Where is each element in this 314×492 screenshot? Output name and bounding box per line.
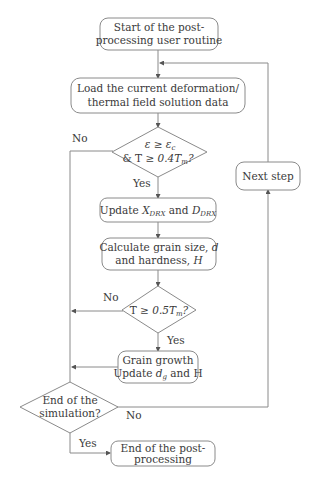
edge-decision1-no — [70, 151, 113, 395]
node-start-line2: processing user routine — [96, 34, 223, 46]
node-calculate: Calculate grain size, d and hardness, H — [99, 238, 218, 270]
node-start-line1: Start of the post- — [114, 21, 205, 33]
decision3-line1: End of the — [42, 394, 97, 406]
edge-label-no-3: No — [126, 409, 142, 421]
node-end: End of the post- processing — [111, 441, 215, 466]
node-next-step: Next step — [236, 162, 300, 190]
node-start: Start of the post- processing user routi… — [96, 18, 223, 50]
node-update-drx: Update XDRX and DDRX — [100, 198, 217, 222]
decision-strain-temperature: ε ≥ εc & T ≥ 0.4Tm? — [112, 127, 207, 177]
node-growth-line1: Grain growth — [122, 354, 193, 366]
decision-end-of-simulation: End of the simulation? — [20, 382, 118, 433]
node-growth-line2: Update dg and H — [113, 367, 202, 381]
node-load-line1: Load the current deformation/ — [77, 82, 239, 94]
node-end-line2: processing — [134, 453, 192, 465]
edge-label-no-2: No — [103, 291, 119, 303]
node-next-label: Next step — [242, 170, 294, 182]
node-calc-line2: and hardness, H — [115, 254, 203, 266]
node-load: Load the current deformation/ thermal fi… — [71, 78, 245, 113]
edge-label-no-1: No — [72, 132, 88, 144]
decision3-line2: simulation? — [39, 407, 101, 419]
node-load-line2: thermal field solution data — [87, 96, 228, 108]
flowchart: Start of the post- processing user routi… — [0, 0, 314, 492]
decision1-line1: ε ≥ εc — [145, 138, 176, 152]
node-calc-line1: Calculate grain size, d — [99, 241, 218, 253]
edge-label-yes-1: Yes — [132, 177, 151, 189]
edge-label-yes-2: Yes — [166, 334, 185, 346]
edge-label-yes-3: Yes — [78, 437, 97, 449]
decision-temperature-half: T ≥ 0.5Tm? — [122, 286, 196, 333]
node-grain-growth: Grain growth Update dg and H — [113, 351, 202, 383]
